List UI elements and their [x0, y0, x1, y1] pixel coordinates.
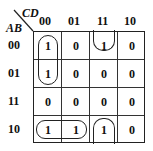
group-loop-vertical: [38, 35, 58, 85]
col-variable-label: CD: [22, 6, 39, 21]
row-label: 00: [8, 38, 20, 53]
kmap-cell: 0: [118, 116, 146, 144]
kmap-cell: 0: [62, 60, 90, 88]
col-label: 00: [39, 14, 51, 29]
kmap-cell: 0: [90, 88, 118, 116]
row-variable-label: AB: [6, 21, 22, 36]
row-label: 01: [8, 66, 20, 81]
kmap-cell: 0: [118, 60, 146, 88]
kmap-cell: 0: [62, 88, 90, 116]
kmap-cell: 0: [90, 60, 118, 88]
group-loop-wrap-bottom: [93, 118, 115, 144]
col-label: 10: [124, 14, 136, 29]
kmap-cell: 0: [118, 32, 146, 60]
kmap-cell: 0: [34, 88, 62, 116]
kmap-cell: 0: [62, 32, 90, 60]
kmap-cell: 0: [118, 88, 146, 116]
row-label: 10: [8, 122, 20, 137]
row-label: 11: [8, 94, 19, 109]
col-label: 01: [68, 14, 80, 29]
col-label: 11: [97, 14, 108, 29]
kmap-grid: 1 0 1 0 1 0 0 0 0 0 0 0 1 1 1 0: [33, 31, 145, 143]
group-loop-wrap-top: [93, 30, 115, 51]
group-loop-horizontal: [36, 120, 87, 139]
